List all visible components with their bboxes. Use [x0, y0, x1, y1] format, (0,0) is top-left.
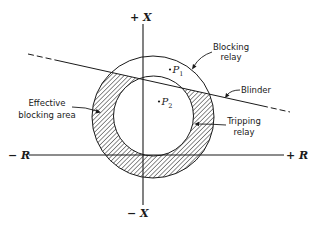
tripping-relay-label-line2: relay — [233, 127, 254, 137]
effective-blocking-area-label-line2: blocking area — [18, 110, 75, 120]
blinder-line — [58, 61, 262, 106]
blocking-relay-label-line1: Blocking — [213, 42, 249, 52]
effective-blocking-area-label-line1: Effective — [28, 98, 65, 108]
blinder-label: Blinder — [241, 85, 272, 95]
axis-label-neg-x: − X — [127, 207, 149, 220]
blinder-arrow — [227, 90, 240, 95]
blocking-relay-arrow — [194, 52, 212, 66]
point-p2-marker — [158, 100, 160, 102]
blocking-relay-label-line2: relay — [220, 52, 241, 62]
axis-label-pos-x: + X — [130, 11, 152, 24]
axis-label-pos-r: + R — [286, 149, 308, 162]
point-p2-label: P2 — [161, 96, 173, 110]
blinder-line-dashed-left — [28, 54, 58, 61]
point-p1-label: P1 — [172, 64, 184, 78]
blinder-line-dashed-right — [262, 106, 290, 112]
point-p1-marker — [169, 68, 171, 70]
relay-characteristic-diagram: + X − X − R + R P1 P2 Blocking relay Bli… — [0, 0, 316, 227]
effective-blocking-area — [92, 56, 214, 178]
tripping-relay-label-line1: Tripping — [226, 116, 261, 126]
axis-label-neg-r: − R — [8, 149, 30, 162]
